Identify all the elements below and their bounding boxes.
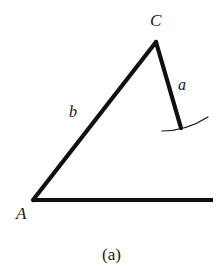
canvas-background xyxy=(0,0,223,276)
vertex-label-c: C xyxy=(150,12,161,29)
vertex-label-a: A xyxy=(16,205,26,222)
figure-caption: (a) xyxy=(0,246,223,263)
side-label-a: a xyxy=(178,77,186,93)
side-label-b: b xyxy=(69,104,77,120)
figure-container: C A b a (a) xyxy=(0,0,223,276)
figure-drawing-canvas xyxy=(0,0,223,276)
